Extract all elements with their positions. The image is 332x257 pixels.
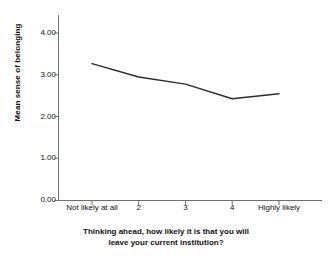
x-tick-label-1: 2	[136, 203, 140, 212]
x-tick-label-2: 3	[183, 203, 187, 212]
x-tick-label-4: Highly likely	[258, 203, 300, 212]
x-tick-label-3: 4	[230, 203, 234, 212]
x-axis-tick-labels: Not likely at all 2 3 4 Highly likely	[0, 203, 332, 217]
plot-area	[0, 0, 332, 257]
y-axis-ticks	[54, 33, 59, 201]
x-axis-title-line-2: leave your current institution?	[30, 237, 302, 248]
data-series-line	[92, 64, 279, 99]
x-axis-title-line-1: Thinking ahead, how likely it is that yo…	[83, 227, 249, 236]
x-tick-label-0: Not likely at all	[66, 203, 118, 212]
chart-container: Mean sense of belonging 4.00 3.00 2.00 1…	[0, 0, 332, 257]
x-axis-title: Thinking ahead, how likely it is that yo…	[30, 226, 302, 248]
